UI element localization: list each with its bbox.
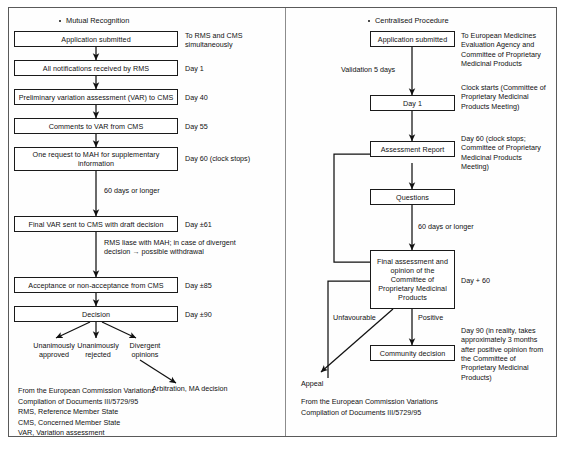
cp-annotation-day1: Clock starts (Committee of Proprietary M… [461,83,561,111]
mr-annotation-notifications: Day 1 [185,64,281,73]
mr-node-comments[interactable]: Comments to VAR from CMS [14,118,178,134]
mr-annotation-request-mah: Day 60 (clock stops) [185,154,283,163]
mr-annotation-application: To RMS and CMS simultaneously [185,31,281,50]
cp-legend: From the European Commission Variations … [301,397,531,418]
cp-annotation-final-assessment: Day + 60 [461,276,561,285]
cp-node-questions[interactable]: Questions [370,189,455,205]
mr-annotation-comments: Day 55 [185,122,281,131]
mr-node-notifications[interactable]: All notifications received by RMS [14,60,178,76]
cp-annotation-assessment-report: Day 60 (clock stops; Committee of Propri… [461,134,561,171]
mr-legend: From the European Commission Variations … [18,386,248,439]
mr-annotation-decision: Day ±90 [185,310,281,319]
cp-edge-label-60-days: 60 days or longer [418,222,490,231]
cp-edge-label-unfavourable: Unfavourable [333,313,393,322]
cp-edge-label-validation: Validation 5 days [341,65,417,74]
cp-panel-title: Centralised Procedure [375,16,449,25]
cp-node-application[interactable]: Application submitted [370,31,455,47]
cp-node-community-decision[interactable]: Community decision [370,345,455,361]
cp-annotation-community-decision: Day 90 (in reality, takes approximately … [461,326,563,382]
mr-annotation-preliminary-var: Day 40 [185,93,281,102]
mr-node-acceptance[interactable]: Acceptance or non-acceptance from CMS [14,277,178,293]
mr-edge-label-rms-liase: RMS liase with MAH; in case of divergent… [104,238,282,257]
mr-annotation-acceptance: Day ±85 [185,281,281,290]
cp-terminal-appeal: Appeal [301,379,351,388]
cp-edge-label-positive: Positive [418,313,466,322]
cp-node-assessment-report[interactable]: Assessment Report [370,141,455,157]
panel-divider [285,8,286,436]
mr-node-application[interactable]: Application submitted [14,31,178,47]
mr-edge-label-60-days: 60 days or longer [104,186,214,195]
mr-node-decision[interactable]: Decision [14,306,178,322]
mr-node-final-var[interactable]: Final VAR sent to CMS with draft decisio… [14,216,178,232]
flowchart-figure: Mutual Recognition Application submitted… [0,0,566,451]
cp-node-final-assessment[interactable]: Final assessment and opinion of the Comm… [370,250,455,309]
mr-panel-title: Mutual Recognition [66,16,129,25]
cp-annotation-application: To European Medicines Evaluation Agency … [461,31,561,68]
mr-annotation-final-var: Day ±61 [185,220,281,229]
mr-terminal-divergent-opinions: Divergent opinions [117,341,173,360]
mr-node-request-mah[interactable]: One request to MAH for supplementary inf… [14,147,178,171]
mr-node-preliminary-var[interactable]: Preliminary variation assessment (VAR) t… [14,89,178,105]
cp-node-day1[interactable]: Day 1 [370,95,455,111]
